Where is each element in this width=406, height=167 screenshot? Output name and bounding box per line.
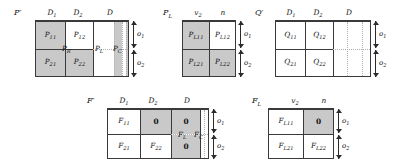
col-label-n: n	[213, 8, 233, 17]
cell-f11: F11	[108, 110, 140, 134]
hrule-rows	[108, 134, 171, 135]
col-label-d: D	[337, 8, 361, 17]
block-matrix-figure: P′ D1 D2 D P11 P12 P21 P22 PR PL PC	[0, 0, 406, 167]
col-label-d2: D2	[66, 8, 90, 18]
matrix-body-f-l: FL11 0 FL21 FL22	[268, 109, 334, 159]
cell-q11: Q11	[276, 22, 305, 49]
cell-pl12: PL12	[210, 22, 235, 49]
cell-f22: F22	[141, 135, 171, 158]
cell-fl22: FL22	[304, 135, 333, 158]
dim-label-o1: o1	[244, 30, 251, 39]
cell-p11: P11	[36, 22, 65, 49]
cell-f12-zero: 0	[141, 110, 171, 134]
cell-p21: P21	[36, 50, 65, 76]
col-label-d: D	[98, 8, 122, 17]
cell-fl11: FL11	[269, 110, 303, 134]
col-label-d: D	[175, 96, 199, 105]
col-label-v2: v2	[186, 8, 210, 18]
dim-label-o2: o2	[244, 59, 251, 68]
matrix-body-q-prime: Q11 Q12 Q21 Q22	[275, 21, 371, 77]
region-label-p-c: PC	[113, 44, 122, 54]
cell-pl21: PL21	[183, 50, 209, 76]
cell-q21: Q21	[276, 50, 305, 76]
matrix-label-f-prime: F′	[87, 96, 94, 105]
matrix-label-q-prime: Q′	[255, 8, 263, 17]
dim-label-o2: o2	[379, 59, 386, 68]
cell-pl11: PL11	[183, 22, 209, 49]
dim-label-o2: o2	[137, 59, 144, 68]
col-label-d1: D1	[40, 8, 64, 18]
cell-q12: Q12	[306, 22, 333, 49]
matrix-label-p-l: PL	[163, 8, 172, 19]
col-label-d2: D2	[141, 96, 165, 106]
col-label-d1: D1	[279, 8, 303, 18]
dim-label-o1: o1	[217, 117, 224, 126]
dim-label-o2: o2	[342, 142, 349, 151]
dotted-divider-f	[204, 110, 205, 158]
cell-fl12-zero: 0	[304, 110, 333, 134]
cell-pl22: PL22	[210, 50, 235, 76]
dim-label-o2: o2	[217, 142, 224, 151]
dim-label-o1: o1	[342, 117, 349, 126]
dim-label-o1: o1	[379, 30, 386, 39]
col-label-n: n	[314, 96, 334, 105]
region-label-f-l: FL	[178, 130, 186, 140]
region-label-p-r: PR	[62, 44, 71, 54]
cell-f21: F21	[108, 135, 140, 158]
region-label-f-c: FC	[194, 130, 203, 140]
col-label-d1: D1	[112, 96, 136, 106]
matrix-body-p-l: PL11 PL12 PL21 PL22	[182, 21, 236, 77]
hrule-fl-rows	[269, 134, 333, 135]
col-label-d2: D2	[306, 8, 330, 18]
hrule-rows	[276, 49, 333, 50]
matrix-label-f-l: FL	[252, 96, 261, 107]
dim-label-o1: o1	[137, 30, 144, 39]
region-label-p-l: PL	[95, 44, 103, 54]
cell-q22: Q22	[306, 50, 333, 76]
matrix-label-p-prime: P′	[14, 8, 21, 17]
cell-fl21: FL21	[269, 135, 303, 158]
hrule-rows-dotted	[333, 49, 370, 50]
hrule-pl-rows	[183, 49, 235, 50]
col-label-v2: v2	[283, 96, 307, 106]
